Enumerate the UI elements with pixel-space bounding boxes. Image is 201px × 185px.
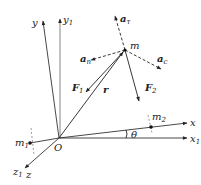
- vector-a-c: ac: [125, 50, 167, 69]
- y1-axis: y1: [60, 14, 73, 138]
- a-c-label: ac: [157, 53, 167, 66]
- a-n-label: an: [80, 53, 91, 66]
- x1-axis: x1: [59, 133, 200, 146]
- x1-axis-label: x1: [190, 133, 200, 146]
- x-axis-label: x: [190, 117, 196, 128]
- origin-label: O: [54, 142, 62, 153]
- y-axis-label: y: [31, 17, 38, 28]
- m1-label: m1: [15, 137, 29, 150]
- m2-label: m2: [152, 111, 166, 124]
- z-axis-label: z: [25, 169, 32, 180]
- y-axis: y: [31, 17, 59, 138]
- F1-label: F1: [71, 82, 84, 95]
- y1-axis-label: y1: [62, 14, 73, 27]
- theta-label: θ: [131, 129, 137, 140]
- vector-r: r: [59, 52, 123, 138]
- vector-a-tau: aτ: [115, 13, 130, 50]
- x-axis: x: [59, 117, 196, 138]
- vector-F2: F2: [125, 50, 157, 101]
- F2-label: F2: [144, 82, 157, 95]
- a-tau-label: aτ: [120, 13, 130, 26]
- m-label: m: [130, 40, 139, 51]
- point-m2: m2: [148, 111, 166, 133]
- point-m: m: [123, 40, 139, 52]
- z1-axis-label: z1: [12, 166, 23, 179]
- rotating-frame-diagram: y y1 x x1 z1 z O m1 m2 θ: [0, 0, 201, 185]
- r-label: r: [103, 84, 109, 95]
- point-m1: m1: [15, 128, 59, 155]
